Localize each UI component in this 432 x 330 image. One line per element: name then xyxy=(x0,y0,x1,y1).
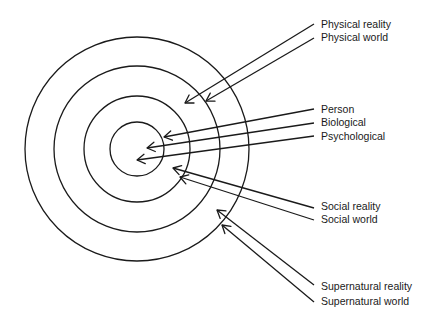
second-ring xyxy=(54,66,220,232)
arrow-person xyxy=(164,109,314,140)
labels-group: Physical reality Physical world Person B… xyxy=(321,18,413,307)
concentric-reality-diagram: Physical reality Physical world Person B… xyxy=(0,0,432,330)
arrow-supernatural-world xyxy=(222,225,314,302)
third-ring xyxy=(84,96,190,202)
arrow-social-world xyxy=(180,175,314,220)
arrow-physical-world xyxy=(206,38,314,101)
label-physical-world: Physical world xyxy=(321,31,388,43)
arrow-physical-reality xyxy=(185,24,314,103)
label-social-reality: Social reality xyxy=(321,200,381,212)
label-psychological: Psychological xyxy=(321,130,385,142)
arrow-supernatural-reality xyxy=(217,210,314,285)
arrows-group xyxy=(137,24,314,302)
arrow-social-reality xyxy=(173,166,314,208)
label-social-world: Social world xyxy=(321,213,378,225)
inner-ring xyxy=(110,122,164,176)
label-supernatural-world: Supernatural world xyxy=(321,295,409,307)
label-person: Person xyxy=(321,103,354,115)
label-biological: Biological xyxy=(321,116,366,128)
label-physical-reality: Physical reality xyxy=(321,18,392,30)
label-supernatural-reality: Supernatural reality xyxy=(321,280,413,292)
